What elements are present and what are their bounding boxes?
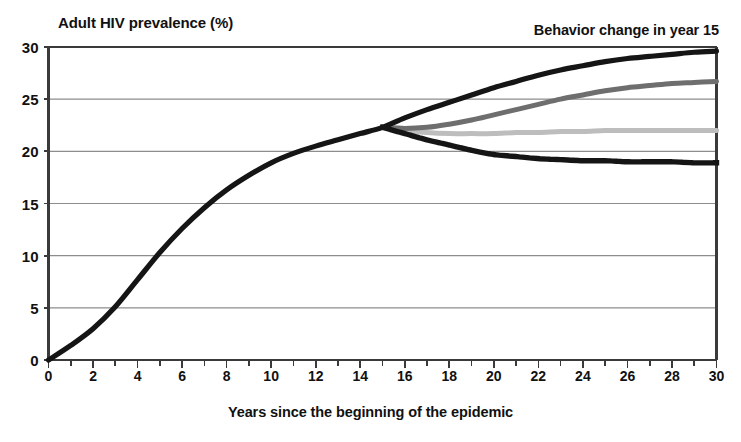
x-tick-label: 20 [481,368,507,384]
y-tick-label: 25 [5,91,39,108]
y-tick-label: 10 [5,247,39,264]
x-tick-label: 4 [125,368,151,384]
x-tick-label: 10 [258,368,284,384]
x-tick-label: 18 [436,368,462,384]
x-tick-label: 6 [169,368,195,384]
x-tick-label: 8 [214,368,240,384]
x-tick-label: 12 [303,368,329,384]
x-tick-label: 16 [392,368,418,384]
y-tick-label: 15 [5,195,39,212]
x-tick-label: 22 [525,368,551,384]
series-line-1 [49,51,717,360]
data-series-group [49,51,717,360]
y-tick-label: 30 [5,39,39,56]
series-line-2 [383,81,717,128]
x-tick-label: 2 [80,368,106,384]
y-tick-label: 20 [5,143,39,160]
y-tick-label: 5 [5,299,39,316]
x-tick-label: 28 [659,368,685,384]
x-tick-label: 14 [347,368,373,384]
x-tick-label: 26 [614,368,640,384]
x-tick-label: 24 [570,368,596,384]
x-tick-label: 0 [36,368,62,384]
chart-figure: Adult HIV prevalence (%) Behavior change… [0,0,741,442]
x-axis-title: Years since the beginning of the epidemi… [0,404,741,420]
x-tick-label: 30 [704,368,730,384]
y-tick-label: 0 [5,352,39,369]
